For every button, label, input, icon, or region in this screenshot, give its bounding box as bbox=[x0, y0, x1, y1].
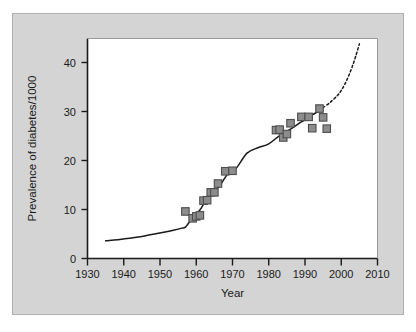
x-tick-label-1930: 1930 bbox=[75, 268, 99, 280]
data-point-marker bbox=[287, 120, 295, 128]
data-point-marker bbox=[305, 113, 313, 121]
y-axis-title: Prevalence of diabetes/1000 bbox=[26, 76, 38, 222]
x-tick-label-1940: 1940 bbox=[112, 268, 136, 280]
data-point-marker bbox=[196, 212, 204, 220]
data-point-marker bbox=[309, 124, 317, 132]
x-tick-label-1990: 1990 bbox=[293, 268, 317, 280]
x-tick-label-1970: 1970 bbox=[220, 268, 244, 280]
x-tick-label-1980: 1980 bbox=[257, 268, 281, 280]
data-point-marker bbox=[211, 189, 219, 197]
data-point-marker bbox=[222, 168, 230, 176]
y-tick-label-40: 40 bbox=[64, 57, 76, 69]
data-point-marker bbox=[283, 130, 291, 138]
data-point-marker bbox=[298, 113, 306, 121]
x-tick-label-2000: 2000 bbox=[329, 268, 353, 280]
y-tick-label-30: 30 bbox=[64, 106, 76, 118]
x-tick-label-1960: 1960 bbox=[184, 268, 208, 280]
x-axis-ticks bbox=[88, 259, 378, 266]
x-axis-title: Year bbox=[221, 287, 244, 299]
y-axis-ticks bbox=[82, 63, 88, 259]
data-point-marker bbox=[229, 167, 237, 175]
data-point-marker bbox=[323, 125, 331, 132]
x-tick-label-1950: 1950 bbox=[148, 268, 172, 280]
data-point-marker bbox=[214, 180, 222, 188]
figure-root: 40 30 20 10 0 1930 1940 1950 1960 1970 1… bbox=[0, 0, 416, 332]
plot-area-background bbox=[88, 39, 378, 259]
x-tick-label-2010: 2010 bbox=[365, 268, 389, 280]
data-point-marker bbox=[316, 105, 324, 113]
data-point-marker bbox=[319, 114, 327, 122]
data-point-marker bbox=[182, 208, 190, 216]
y-tick-label-0: 0 bbox=[70, 253, 76, 265]
data-point-marker bbox=[276, 126, 284, 134]
data-point-marker bbox=[203, 196, 211, 204]
y-tick-label-20: 20 bbox=[64, 155, 76, 167]
y-tick-label-10: 10 bbox=[64, 204, 76, 216]
diabetes-prevalence-chart: 40 30 20 10 0 1930 1940 1950 1960 1970 1… bbox=[0, 0, 416, 332]
